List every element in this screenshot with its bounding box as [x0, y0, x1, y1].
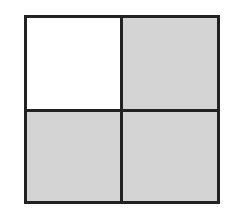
fraction-square — [24, 15, 220, 204]
cell-bottom-left — [27, 112, 123, 201]
cell-top-right — [123, 18, 217, 112]
cell-top-left — [27, 18, 123, 112]
cell-bottom-right — [123, 112, 217, 201]
